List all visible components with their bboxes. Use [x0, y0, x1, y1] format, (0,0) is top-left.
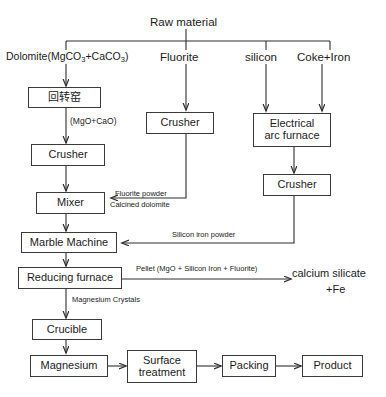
box-mixer: Mixer [36, 192, 105, 214]
raw-material-label: Raw material [150, 16, 217, 29]
box-crusher-silicon: Crusher [263, 174, 331, 196]
box-rotary-kiln: 回转窑 [28, 87, 101, 108]
silicon-label: silicon [245, 51, 277, 64]
edge-label-silicon-iron-powder: Silicon iron powder [172, 231, 235, 240]
edge-label-magnesium-crystals: Magnesium Crystals [72, 296, 140, 305]
box-magnesium: Magnesium [30, 355, 108, 377]
box-crucible: Crucible [32, 319, 102, 340]
calcium-silicate-output: calcium silicate [292, 267, 366, 279]
coke-iron-label: Coke+Iron [297, 51, 350, 64]
edge-label-mgo-cao: (MgO+CaO) [70, 117, 117, 127]
box-electrical-arc-furnace: Electrical arc furnace [253, 113, 331, 147]
edge-label-calcined-dolomite: Calcined dolomite [110, 201, 170, 210]
box-product: Product [302, 355, 363, 377]
calcium-silicate-fe-output: +Fe [326, 283, 345, 295]
fluorite-label: Fluorite [160, 51, 198, 64]
edge-label-fluorite-powder: Fluorite powder [115, 190, 167, 199]
box-packing: Packing [222, 355, 276, 377]
box-crusher-fluorite: Crusher [146, 112, 214, 134]
box-reducing-furnace: Reducing furnace [18, 267, 122, 289]
process-flowchart: Raw material Dolomite(MgCO3+CaCO3) Fluor… [0, 0, 386, 397]
box-surface-treatment: Surface treatment [127, 350, 197, 383]
edge-label-pellet: Pellet (MgO + Silicon Iron + Fluorite) [136, 265, 257, 274]
box-crusher-dolomite: Crusher [31, 144, 105, 166]
box-marble-machine: Marble Machine [21, 232, 117, 253]
dolomite-label: Dolomite(MgCO3+CaCO3) [6, 51, 128, 64]
